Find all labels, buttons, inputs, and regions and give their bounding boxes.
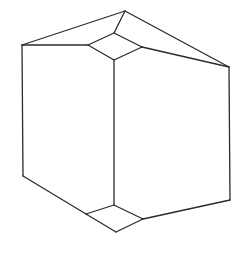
figure-canvas xyxy=(0,0,240,253)
polyhedron-line-drawing xyxy=(0,0,240,253)
face-right-front xyxy=(114,47,230,219)
